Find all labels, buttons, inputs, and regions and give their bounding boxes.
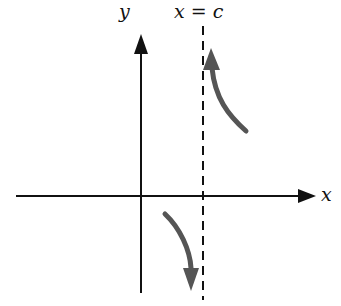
lower-branch-curve — [165, 214, 199, 291]
x-axis — [16, 189, 316, 203]
x-axis-label: x — [321, 183, 332, 205]
y-axis — [134, 34, 148, 293]
lower-branch-arrow-icon — [183, 268, 199, 291]
y-axis-arrow-icon — [134, 34, 148, 54]
upper-branch-curve — [203, 48, 246, 131]
upper-branch-arrow-icon — [203, 48, 220, 70]
asymptote-diagram: y x = c x — [0, 0, 341, 306]
asymptote-label: x = c — [174, 0, 224, 22]
y-axis-label: y — [118, 0, 130, 22]
x-axis-arrow-icon — [298, 189, 316, 203]
